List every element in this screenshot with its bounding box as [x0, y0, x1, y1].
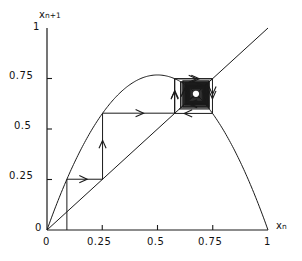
x-tick-label-0: 0 — [43, 236, 50, 247]
logistic-map-curve — [47, 75, 268, 230]
y-tick-label-0: 0 — [35, 222, 42, 233]
cobweb-plot-figure: xn+1 xn 1 0.75 0.5 0.25 0 0 0.25 0.5 0.7… — [0, 0, 302, 261]
y-tick-label-05: 0.5 — [14, 120, 31, 131]
x-axis-label: xn — [276, 220, 287, 231]
identity-line — [47, 28, 268, 230]
x-tick-label-075: 0.75 — [198, 236, 222, 247]
y-axis-ticks — [47, 28, 52, 180]
x-tick-label-025: 0.25 — [87, 236, 111, 247]
y-tick-label-1: 1 — [33, 21, 40, 32]
y-tick-label-075: 0.75 — [9, 70, 33, 81]
x-tick-label-05: 0.5 — [147, 236, 164, 247]
fixed-point-marker — [193, 91, 199, 97]
y-axis-label: xn+1 — [39, 9, 61, 20]
x-tick-label-1: 1 — [264, 236, 271, 247]
y-tick-label-025: 0.25 — [9, 170, 33, 181]
plot-canvas — [0, 0, 302, 261]
x-axis-ticks — [102, 225, 213, 230]
